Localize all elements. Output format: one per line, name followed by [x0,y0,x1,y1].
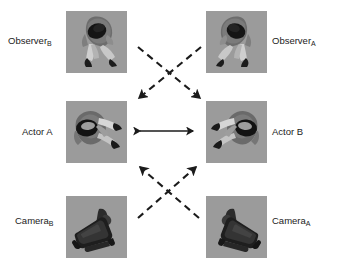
connector-camera-b-to-actor-b [138,167,196,218]
figure-canvas: ObserverB ObserverA [0,0,337,274]
label-observer-b: ObserverB [8,36,52,46]
label-observer-a-text: Observer [272,35,311,46]
panel-observer-b [66,11,127,73]
label-actor-b: Actor B [272,127,303,137]
label-camera-a-subscript: A [306,220,311,227]
panel-actor-a [66,101,127,163]
connector-observer-b-to-actor-b [138,47,200,98]
panel-observer-a [206,11,267,73]
label-observer-b-text: Observer [8,35,47,46]
label-actor-a: Actor A [22,127,53,137]
label-camera-b-subscript: B [49,220,54,227]
connector-camera-a-to-actor-a [140,167,199,218]
label-observer-b-subscript: B [47,40,52,47]
video-camera-icon [66,196,127,258]
panel-camera-b [66,196,127,258]
label-camera-a: CameraA [272,216,310,226]
label-observer-a: ObserverA [272,36,316,46]
video-camera-icon [206,196,267,258]
label-actor-a-text: Actor A [22,126,53,137]
person-top-down-icon [66,11,127,73]
label-actor-b-text: Actor B [272,126,303,137]
connector-observer-a-to-actor-a [139,47,201,98]
label-camera-a-text: Camera [272,215,306,226]
panel-actor-b [206,101,267,163]
person-top-down-icon [66,101,127,163]
label-camera-b-text: Camera [15,215,49,226]
label-camera-b: CameraB [15,216,53,226]
person-top-down-icon [206,101,267,163]
person-top-down-icon [206,11,267,73]
label-observer-a-subscript: A [311,40,316,47]
panel-camera-a [206,196,267,258]
